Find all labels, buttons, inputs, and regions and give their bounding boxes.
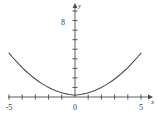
graph-figure: y x 8 -5 5 0 xyxy=(0,0,158,117)
y-tick-label-8: 8 xyxy=(61,18,65,27)
x-axis-label: x xyxy=(150,98,155,106)
x-tick-label-origin: 0 xyxy=(73,103,77,112)
x-tick-label-5: 5 xyxy=(139,103,143,112)
x-tick-label-neg-5: -5 xyxy=(6,103,13,112)
y-axis-arrow-icon xyxy=(73,3,78,8)
y-axis-label: y xyxy=(77,2,82,10)
coordinate-plane-svg: y x 8 -5 5 0 xyxy=(0,0,158,117)
